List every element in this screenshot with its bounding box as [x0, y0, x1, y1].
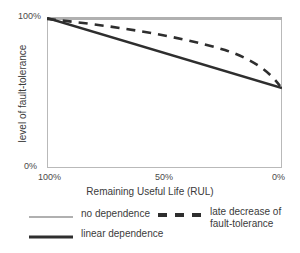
legend-item-late-decrease: late decrease of fault-tolerance — [158, 206, 281, 230]
legend-label-no-dependence: no dependence — [81, 208, 150, 220]
chart-plot-lines — [47, 17, 282, 168]
x-tick-0: 0% — [272, 172, 285, 182]
y-tick-100: 100% — [18, 11, 41, 21]
legend-swatch-dashed-icon — [158, 209, 202, 221]
legend-swatch-solid-thin-icon — [29, 211, 73, 223]
legend-item-linear-dependence: linear dependence — [29, 228, 163, 243]
x-axis-title: Remaining Useful Life (RUL) — [0, 186, 300, 197]
chart-container: 100% 0% 100% 50% 0% Remaining Useful Lif… — [0, 0, 300, 253]
x-tick-100: 100% — [38, 172, 61, 182]
series-linear-dependence — [47, 18, 282, 88]
y-axis-title: level of fault-tolerance — [17, 24, 28, 164]
legend-swatch-solid-thick-icon — [29, 231, 73, 243]
chart-legend: no dependence linear dependence late dec… — [0, 202, 300, 252]
legend-item-no-dependence: no dependence — [29, 208, 150, 223]
legend-label-linear-dependence: linear dependence — [81, 228, 163, 240]
legend-label-late-decrease: late decrease of fault-tolerance — [210, 206, 281, 230]
x-tick-50: 50% — [155, 172, 173, 182]
